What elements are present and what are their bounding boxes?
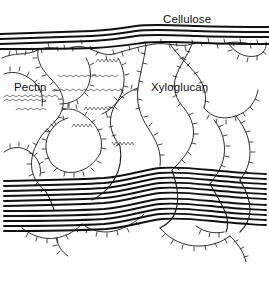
- label-xyloglucan: Xyloglucan: [151, 81, 208, 93]
- cell-wall-diagram-canvas: [0, 0, 269, 285]
- label-cellulose: Cellulose: [163, 13, 211, 25]
- cell-wall-figure: Cellulose Pectin Xyloglucan: [0, 0, 269, 285]
- label-pectin: Pectin: [14, 81, 47, 93]
